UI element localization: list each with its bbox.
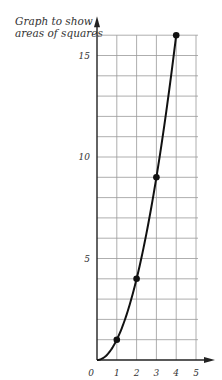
x-tick-label: 1 [114,368,120,378]
x-tick-label: 3 [154,368,160,378]
x-tick-label: 2 [133,368,140,378]
data-point [133,276,140,283]
y-tick-label: 15 [79,51,91,61]
x-axis-arrow-icon [204,357,215,363]
y-tick-label: 10 [79,152,91,162]
y-axis-arrow-icon [94,16,100,27]
x-tick-label: 5 [193,368,199,378]
chart-plot: 01234551015 [0,0,222,380]
y-tick-label: 5 [84,254,90,264]
data-point [114,336,121,343]
data-point [153,174,160,181]
data-point [173,32,180,39]
x-tick-label: 0 [88,368,94,378]
x-tick-label: 4 [172,368,179,378]
